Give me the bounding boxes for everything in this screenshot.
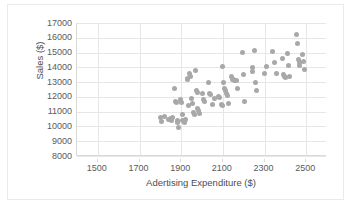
data-point [159, 119, 164, 124]
data-point [193, 68, 198, 73]
data-points [77, 23, 326, 155]
data-point [272, 60, 277, 65]
y-axis-tick-labels: 8000900010000110001200013000140001500016… [28, 23, 72, 156]
data-point [295, 41, 300, 46]
data-point [200, 91, 205, 96]
data-point [197, 111, 202, 116]
y-tick-label: 12000 [47, 92, 72, 101]
data-point [241, 72, 246, 77]
x-tick-label: 2100 [212, 164, 232, 173]
x-tick-label: 2500 [295, 164, 315, 173]
data-point [226, 101, 231, 106]
x-tick-label: 2300 [253, 164, 273, 173]
data-point [235, 86, 240, 91]
y-tick-label: 13000 [47, 78, 72, 87]
x-tick-mark [180, 159, 181, 162]
data-point [202, 99, 207, 104]
data-point [252, 48, 257, 53]
data-point [254, 88, 259, 93]
data-point [302, 67, 307, 72]
data-point [210, 102, 215, 107]
scatter-chart: Sales ($) 800090001000011000120001300014… [0, 0, 351, 209]
data-point [274, 71, 279, 76]
data-point [183, 117, 188, 122]
data-point [300, 52, 305, 57]
data-point [301, 59, 306, 64]
x-tick-mark [305, 159, 306, 162]
y-tick-label: 15000 [47, 48, 72, 57]
x-tick-mark [264, 159, 265, 162]
data-point [285, 51, 290, 56]
y-tick-label: 8000 [52, 152, 72, 161]
data-point [262, 71, 267, 76]
data-point [234, 78, 239, 83]
data-point [242, 99, 247, 104]
data-point [220, 64, 225, 69]
x-axis-title: Adertising Expenditure ($) [76, 177, 326, 188]
x-tick-label: 1700 [128, 164, 148, 173]
data-point [286, 63, 291, 68]
data-point [253, 80, 258, 85]
data-point [179, 100, 184, 105]
y-tick-label: 14000 [47, 63, 72, 72]
data-point [206, 80, 211, 85]
x-tick-mark [139, 159, 140, 162]
x-tick-label: 1900 [170, 164, 190, 173]
y-tick-label: 16000 [47, 33, 72, 42]
data-point [221, 80, 226, 85]
chart-frame: Sales ($) 800090001000011000120001300014… [7, 4, 344, 200]
data-point [172, 86, 177, 91]
x-tick-mark [222, 159, 223, 162]
x-tick-label: 1500 [87, 164, 107, 173]
data-point [217, 95, 222, 100]
data-point [190, 101, 195, 106]
y-tick-label: 10000 [47, 122, 72, 131]
data-point [280, 56, 285, 61]
data-point [250, 69, 255, 74]
data-point [294, 32, 299, 37]
y-tick-label: 11000 [48, 107, 72, 116]
y-tick-label: 9000 [52, 137, 72, 146]
y-tick-label: 17000 [47, 19, 72, 28]
data-point [195, 90, 200, 95]
data-point [225, 93, 230, 98]
data-point [220, 103, 225, 108]
data-point [270, 49, 275, 54]
data-point [287, 74, 292, 79]
gridline-horizontal [77, 156, 326, 157]
data-point [192, 112, 197, 117]
x-tick-mark [97, 159, 98, 162]
data-point [240, 50, 245, 55]
data-point [188, 74, 193, 79]
data-point [176, 125, 181, 130]
plot-area [76, 23, 326, 156]
data-point [264, 64, 269, 69]
x-axis-tick-labels: 150017001900210023002500 [76, 159, 326, 173]
